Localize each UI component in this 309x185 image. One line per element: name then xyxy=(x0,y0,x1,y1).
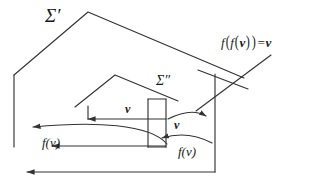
figure-canvas: Σ′ Σ″ v v f(v) f(v) f(f(v))=v xyxy=(0,0,309,185)
formula-outer-f: f xyxy=(221,35,225,50)
formula-open-paren-outer: ( xyxy=(225,33,229,50)
label-involution-formula: f(f(v))=v xyxy=(221,33,271,50)
formula-close-paren-inner: ) xyxy=(246,33,250,50)
formula-inner-f: f xyxy=(230,35,234,50)
formula-argument-v: v xyxy=(240,35,246,50)
label-vector-v-top: v xyxy=(125,103,130,115)
arrow-fv-right-curved xyxy=(162,135,212,143)
formula-result-v: v xyxy=(266,35,272,50)
formula-equals: = xyxy=(257,35,266,50)
label-vector-v-inner: v xyxy=(174,119,179,131)
label-inner-surface: Σ″ xyxy=(156,74,170,88)
formula-open-paren-inner: ( xyxy=(235,33,239,50)
diagram-svg xyxy=(0,0,309,185)
label-fv-left: f(v) xyxy=(42,136,60,149)
formula-leader-line xyxy=(196,55,271,111)
label-outer-surface: Σ′ xyxy=(45,6,60,25)
formula-close-paren-outer: ) xyxy=(252,33,256,50)
label-fv-right: f(v) xyxy=(178,145,196,158)
outer-surface-cross-edge xyxy=(198,70,248,89)
